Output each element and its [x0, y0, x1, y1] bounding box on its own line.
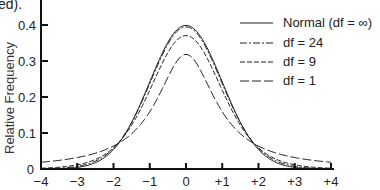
x-tick-label: +1 — [215, 174, 230, 189]
y-tick-label: 0.4 — [18, 18, 36, 33]
y-tick-label: 0 — [27, 162, 34, 177]
curve-df-1 — [41, 54, 331, 162]
legend: Normal (df = ∞)df = 24df = 9df = 1 — [240, 15, 372, 88]
t-distribution-chart: −4−3−2−10+1+2+3+4 00.10.20.30.4 Relative… — [0, 0, 380, 190]
y-axis-title: Relative Frequency — [2, 42, 17, 154]
x-tick-label: −2 — [106, 174, 121, 189]
x-tick-label: +4 — [324, 174, 339, 189]
legend-label: Normal (df = ∞) — [283, 15, 372, 30]
legend-label: df = 24 — [283, 35, 323, 50]
x-tick-label: −3 — [70, 174, 85, 189]
x-tick-label: −4 — [34, 174, 49, 189]
x-tick-label: +3 — [287, 174, 302, 189]
y-tick-label: 0.3 — [18, 54, 36, 69]
x-tick-label: 0 — [182, 174, 189, 189]
y-tick-label: 0.1 — [18, 126, 36, 141]
y-tick-label: 0.2 — [18, 90, 36, 105]
legend-label: df = 9 — [283, 54, 316, 69]
y-ticks: 00.10.20.30.4 — [18, 18, 48, 177]
x-tick-label: −1 — [142, 174, 157, 189]
x-tick-label: +2 — [251, 174, 266, 189]
legend-label: df = 1 — [283, 73, 316, 88]
